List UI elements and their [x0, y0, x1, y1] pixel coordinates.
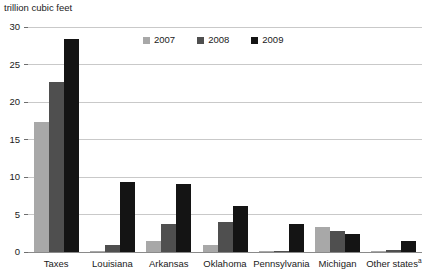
x-tick-label: Other statesa: [366, 258, 422, 270]
x-tick-label: Oklahoma: [197, 258, 253, 270]
bar-group: [34, 27, 79, 252]
bar-2008[interactable]: [105, 245, 120, 253]
y-tick-label: 15: [0, 135, 20, 145]
y-tick-mark: [24, 102, 28, 103]
bar-2008[interactable]: [218, 222, 233, 252]
y-tick-mark: [24, 64, 28, 65]
bar-2007[interactable]: [34, 122, 49, 252]
x-tick-label: Pennsylvania: [253, 258, 309, 270]
y-tick-label: 30: [0, 22, 20, 32]
y-tick-label: 5: [0, 210, 20, 220]
bar-chart: trillion cubic feet 2007 2008 2009 05101…: [0, 0, 426, 277]
x-tick-label: Michigan: [309, 258, 365, 270]
y-tick-mark: [24, 27, 28, 28]
y-tick-label: 0: [0, 247, 20, 257]
bar-2009[interactable]: [401, 241, 416, 252]
footnote-marker: a: [418, 257, 422, 264]
bar-2009[interactable]: [64, 39, 79, 252]
y-tick-mark: [24, 177, 28, 178]
x-tick-label: Taxes: [28, 258, 84, 270]
y-tick-mark: [24, 252, 28, 253]
bar-2009[interactable]: [233, 206, 248, 253]
plot-area: [28, 27, 422, 252]
bar-2008[interactable]: [274, 251, 289, 253]
y-tick-label: 25: [0, 60, 20, 70]
bar-group: [259, 27, 304, 252]
y-tick-label: 10: [0, 172, 20, 182]
bar-2007[interactable]: [90, 251, 105, 252]
bar-2008[interactable]: [161, 224, 176, 253]
bar-group: [371, 27, 416, 252]
bar-group: [146, 27, 191, 252]
y-tick-label: 20: [0, 97, 20, 107]
bar-2007[interactable]: [203, 245, 218, 253]
x-tick-label: Arkansas: [141, 258, 197, 270]
bar-2009[interactable]: [289, 224, 304, 253]
y-tick-mark: [24, 214, 28, 215]
bar-2008[interactable]: [330, 231, 345, 252]
y-tick-mark: [24, 139, 28, 140]
bar-2009[interactable]: [120, 182, 135, 253]
bar-2007[interactable]: [371, 251, 386, 252]
bar-2008[interactable]: [386, 250, 401, 252]
bar-group: [203, 27, 248, 252]
bar-2007[interactable]: [259, 251, 274, 252]
x-tick-label: Louisiana: [84, 258, 140, 270]
y-axis-unit-label: trillion cubic feet: [4, 2, 72, 14]
bar-2007[interactable]: [315, 227, 330, 253]
bar-2009[interactable]: [176, 184, 191, 252]
bar-group: [90, 27, 135, 252]
bar-2009[interactable]: [345, 234, 360, 252]
bar-2008[interactable]: [49, 82, 64, 252]
bar-2007[interactable]: [146, 241, 161, 252]
bar-group: [315, 27, 360, 252]
